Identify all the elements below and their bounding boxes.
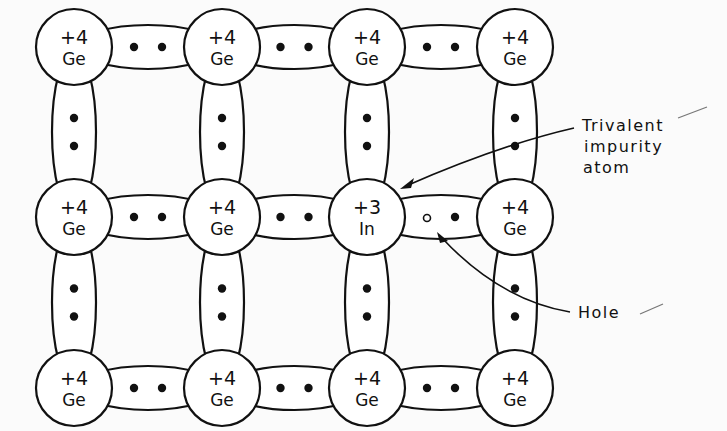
germanium-atom: +4Ge [184, 179, 260, 255]
germanium-atom: +4Ge [184, 9, 260, 85]
electron-dot [276, 384, 284, 392]
electron-dot [276, 43, 284, 51]
germanium-atom: +4Ge [477, 9, 553, 85]
germanium-atom: +4Ge [36, 9, 112, 85]
electron-dot [158, 43, 166, 51]
stray-mark [640, 304, 663, 314]
covalent-bonds [52, 25, 537, 410]
impurity-label-line2: impurity [584, 137, 663, 156]
impurity-arrowhead-icon [400, 178, 414, 189]
germanium-atom: +4Ge [477, 350, 553, 426]
electron-dot [451, 213, 459, 221]
electron-dot [363, 312, 371, 320]
atom-element: Ge [210, 219, 234, 239]
electron-dot [70, 284, 78, 292]
atom-element: Ge [62, 390, 86, 410]
electron-dot [304, 43, 312, 51]
electron-dot [218, 284, 226, 292]
atom-element: Ge [210, 49, 234, 69]
atom-charge: +4 [60, 26, 88, 48]
atom-charge: +4 [208, 367, 236, 389]
electron-dot [511, 312, 519, 320]
atom-charge: +4 [353, 26, 381, 48]
impurity-label-line3: atom [583, 158, 630, 177]
germanium-atom: +4Ge [329, 9, 405, 85]
electron-dot [218, 142, 226, 150]
atom-element: Ge [355, 390, 379, 410]
atom-element: Ge [503, 49, 527, 69]
stray-mark [678, 107, 707, 118]
atom-charge: +4 [208, 196, 236, 218]
atom-charge: +4 [60, 367, 88, 389]
impurity-leader-line [406, 128, 574, 186]
electron-dot [451, 384, 459, 392]
electron-dot [511, 284, 519, 292]
electron-dot [304, 213, 312, 221]
indium-impurity-atom: +3In [329, 179, 405, 255]
electron-dot [363, 142, 371, 150]
electron-dot [70, 142, 78, 150]
hole-label: Hole [578, 303, 620, 322]
electron-dot [511, 114, 519, 122]
electron-dot [158, 384, 166, 392]
electron-dot [130, 384, 138, 392]
atom-element: Ge [355, 49, 379, 69]
electron-dot [363, 114, 371, 122]
atom-element: Ge [62, 49, 86, 69]
atom-charge: +3 [353, 196, 381, 218]
germanium-atom: +4Ge [477, 179, 553, 255]
atom-charge: +4 [501, 367, 529, 389]
atom-charge: +4 [501, 26, 529, 48]
germanium-atom: +4Ge [329, 350, 405, 426]
atom-charge: +4 [60, 196, 88, 218]
electron-dot [130, 43, 138, 51]
electron-dot [218, 312, 226, 320]
atom-charge: +4 [501, 196, 529, 218]
atom-charge: +4 [353, 367, 381, 389]
electron-dot [70, 114, 78, 122]
electron-dot [276, 213, 284, 221]
atom-element: In [359, 219, 375, 239]
electron-dot [304, 384, 312, 392]
hole-annotation: Hole [437, 232, 663, 322]
electron-dot [363, 284, 371, 292]
germanium-atom: +4Ge [36, 350, 112, 426]
atom-charge: +4 [208, 26, 236, 48]
germanium-lattice-diagram: +4Ge+4Ge+4Ge+4Ge+4Ge+4Ge+3In+4Ge+4Ge+4Ge… [0, 0, 727, 431]
electron-dot [423, 384, 431, 392]
electron-dot [130, 213, 138, 221]
atom-element: Ge [503, 219, 527, 239]
atom-element: Ge [210, 390, 234, 410]
electron-dot [218, 114, 226, 122]
electron-dot [423, 43, 431, 51]
hole-marker [424, 215, 431, 222]
germanium-atom: +4Ge [184, 350, 260, 426]
electron-dot [158, 213, 166, 221]
atom-element: Ge [62, 219, 86, 239]
electron-dot [451, 43, 459, 51]
impurity-annotation: Trivalent impurity atom [400, 107, 707, 189]
electron-dot [70, 312, 78, 320]
germanium-atom: +4Ge [36, 179, 112, 255]
atom-element: Ge [503, 390, 527, 410]
impurity-label-line1: Trivalent [581, 116, 664, 135]
